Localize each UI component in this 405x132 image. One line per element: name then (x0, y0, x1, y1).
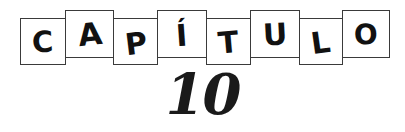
letter-glyph-u: U (262, 19, 288, 50)
letter-glyph-p: P (123, 27, 148, 59)
letter-box-t: T (206, 18, 251, 65)
letter-box-l: L (299, 18, 343, 65)
letter-box-o: O (342, 10, 390, 58)
letter-glyph-i-acute: Í (176, 21, 189, 52)
letter-glyph-c: C (32, 27, 55, 57)
letter-box-row: C A P Í T U L O (0, 0, 405, 70)
letter-box-a: A (65, 10, 114, 58)
letter-box-i: Í (157, 10, 207, 58)
chapter-number: 10 (0, 66, 405, 122)
letter-glyph-o: O (354, 21, 379, 50)
chapter-number-text: 10 (166, 61, 240, 127)
letter-box-p: P (113, 18, 158, 65)
letter-glyph-t: T (217, 27, 240, 59)
letter-box-u: U (250, 10, 300, 58)
letter-box-c: C (20, 18, 66, 65)
letter-glyph-a: A (76, 17, 103, 50)
letter-glyph-l: L (310, 26, 333, 58)
chapter-heading-page: C A P Í T U L O 10 (0, 0, 405, 132)
